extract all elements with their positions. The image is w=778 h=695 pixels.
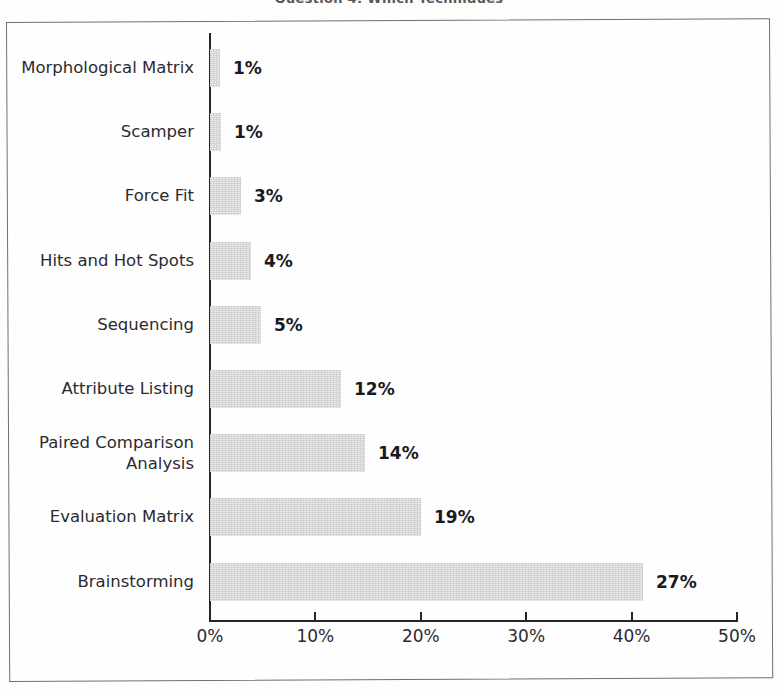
- chart-row: Attribute Listing12%: [0, 367, 778, 432]
- chart-row: Force Fit3%: [0, 174, 778, 239]
- bar-value-label: 14%: [378, 443, 419, 463]
- category-label: Scamper: [0, 121, 194, 142]
- bar[interactable]: [210, 434, 365, 472]
- bar-value-label: 1%: [233, 58, 262, 78]
- chart-row: Evaluation Matrix19%: [0, 495, 778, 560]
- chart-row: Paired Comparison Analysis14%: [0, 431, 778, 496]
- x-axis-tick-label: 50%: [718, 626, 756, 646]
- x-axis-tick-label: 0%: [197, 626, 224, 646]
- bar-value-label: 4%: [264, 251, 293, 271]
- bar[interactable]: [210, 113, 221, 151]
- bar-value-label: 19%: [434, 507, 475, 527]
- category-label: Force Fit: [0, 185, 194, 206]
- category-label: Paired Comparison Analysis: [0, 432, 194, 474]
- category-label: Brainstorming: [0, 571, 194, 592]
- bar-value-label: 5%: [274, 315, 303, 335]
- chart-row: Morphological Matrix1%: [0, 46, 778, 111]
- x-axis-tick-label: 40%: [613, 626, 651, 646]
- bar[interactable]: [210, 177, 241, 215]
- bar-value-label: 27%: [656, 572, 697, 592]
- scanned-page: Question 4: Which Techniques 0%10%20%30%…: [0, 0, 778, 695]
- bar-value-label: 3%: [254, 186, 283, 206]
- bar[interactable]: [210, 242, 251, 280]
- bar-value-label: 12%: [354, 379, 395, 399]
- chart-row: Scamper1%: [0, 110, 778, 175]
- bar[interactable]: [210, 49, 220, 87]
- chart-row: Hits and Hot Spots4%: [0, 239, 778, 304]
- x-axis-tick-label: 30%: [507, 626, 545, 646]
- bar-value-label: 1%: [234, 122, 263, 142]
- bar-chart-plot: 0%10%20%30%40%50%Morphological Matrix1%S…: [0, 0, 778, 695]
- bar[interactable]: [210, 563, 643, 601]
- bar[interactable]: [210, 306, 261, 344]
- category-label: Sequencing: [0, 314, 194, 335]
- chart-row: Brainstorming27%: [0, 560, 778, 625]
- category-label: Attribute Listing: [0, 378, 194, 399]
- category-label: Hits and Hot Spots: [0, 250, 194, 271]
- chart-row: Sequencing5%: [0, 303, 778, 368]
- x-axis-tick-label: 10%: [296, 626, 334, 646]
- category-label: Evaluation Matrix: [0, 506, 194, 527]
- category-label: Morphological Matrix: [0, 57, 194, 78]
- bar[interactable]: [210, 370, 341, 408]
- x-axis-tick-label: 20%: [402, 626, 440, 646]
- bar[interactable]: [210, 498, 421, 536]
